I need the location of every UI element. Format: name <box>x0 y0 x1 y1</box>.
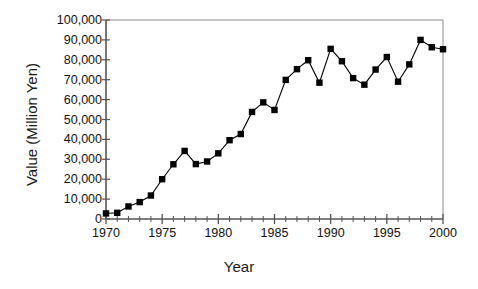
data-point <box>125 203 131 209</box>
data-point <box>215 150 221 156</box>
data-point <box>372 66 378 72</box>
data-point <box>114 210 120 216</box>
data-point <box>395 78 401 84</box>
data-point <box>181 148 187 154</box>
plot-area <box>0 0 478 289</box>
data-point <box>271 107 277 113</box>
data-point <box>406 61 412 67</box>
data-point <box>350 75 356 81</box>
data-point <box>137 199 143 205</box>
data-point <box>226 137 232 143</box>
data-point <box>148 192 154 198</box>
data-point <box>440 46 446 52</box>
chart-container: Value (Million Yen) 100,000 90,000 80,00… <box>0 0 478 289</box>
data-point <box>249 109 255 115</box>
data-point <box>238 131 244 137</box>
data-point <box>170 161 176 167</box>
data-point <box>193 161 199 167</box>
data-point <box>260 99 266 105</box>
data-point <box>283 77 289 83</box>
data-point <box>339 58 345 64</box>
series-markers <box>103 37 446 217</box>
data-point <box>159 176 165 182</box>
data-point <box>417 37 423 43</box>
data-point <box>384 54 390 60</box>
data-point <box>327 46 333 52</box>
data-point <box>305 57 311 63</box>
data-point <box>204 158 210 164</box>
series-line <box>106 40 443 214</box>
data-point <box>294 66 300 72</box>
data-point <box>429 44 435 50</box>
data-point <box>103 210 109 216</box>
data-point <box>361 81 367 87</box>
data-point <box>316 79 322 85</box>
